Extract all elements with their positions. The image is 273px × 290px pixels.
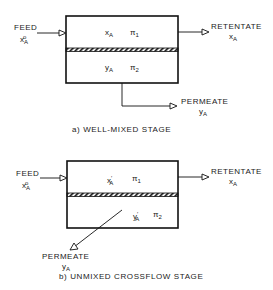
sub: A (109, 180, 113, 186)
permeate-arrow-icon (170, 103, 177, 109)
membrane (67, 193, 178, 197)
sub: 2 (136, 67, 139, 73)
lower-composition: y′A (133, 211, 139, 222)
sub: A (203, 111, 207, 117)
feed-arrow-icon (60, 175, 67, 181)
upper-pressure: π1 (132, 175, 141, 184)
permeate-label: PERMEATE (181, 98, 228, 106)
retentate-label: RETENTATE (211, 23, 262, 31)
caption-a: a) WELL-MIXED STAGE (72, 126, 171, 134)
caption-b: b) UNMIXED CROSSFLOW STAGE (59, 273, 203, 281)
sub: A (233, 36, 237, 42)
feed-label: FEED (16, 170, 39, 178)
feed-arrow-icon (59, 30, 66, 36)
permeate-composition: yA (199, 108, 207, 117)
sub: 2 (159, 214, 162, 220)
membrane (66, 48, 178, 52)
retentate-arrow-icon (202, 29, 209, 35)
well-mixed-stage-diagram (37, 16, 209, 109)
lower-pressure: π2 (153, 211, 162, 220)
feed-composition: xAo (22, 180, 28, 191)
sub: 1 (138, 178, 141, 184)
sub: A (109, 67, 113, 73)
sub: A (135, 216, 139, 222)
sub: A (233, 181, 237, 187)
unmixed-crossflow-stage-diagram (40, 161, 209, 250)
sup: o (25, 180, 28, 186)
retentate-label: RETENTATE (211, 168, 262, 176)
lower-composition: yA (105, 64, 113, 73)
permeate-label: PERMEATE (42, 253, 89, 261)
lower-pressure: π2 (130, 64, 139, 73)
retentate-composition: xA (229, 33, 237, 42)
permeate-arrow-icon (70, 243, 78, 250)
feed-label: FEED (14, 24, 37, 32)
retentate-arrow-icon (202, 174, 209, 180)
feed-composition: xAo (20, 34, 26, 45)
upper-composition: xA (105, 29, 113, 38)
retentate-composition: xA (229, 178, 237, 187)
upper-pressure: π1 (130, 29, 139, 38)
diagram-canvas (0, 0, 273, 290)
permeate-composition: yA (62, 263, 70, 272)
sup: o (23, 34, 26, 40)
sub: A (109, 32, 113, 38)
upper-composition: x′A (107, 175, 113, 186)
sub: 1 (136, 32, 139, 38)
